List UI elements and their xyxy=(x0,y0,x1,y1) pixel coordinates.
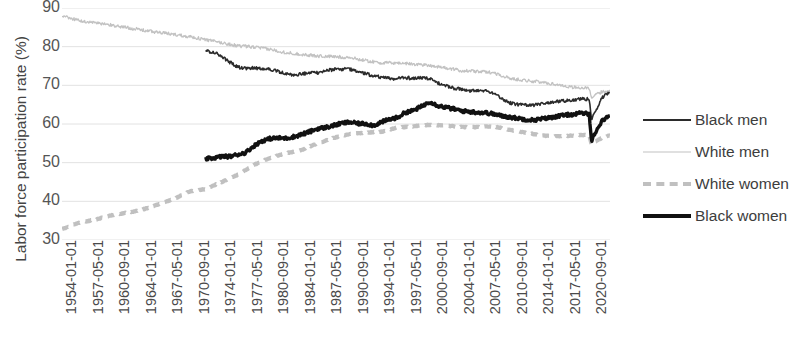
legend-item-label: White women xyxy=(695,175,789,193)
x-axis-tick: 1957-05-01 xyxy=(91,240,105,336)
plot-svg xyxy=(62,8,610,240)
labor-force-participation-chart: Labor force participation rate (%) 90807… xyxy=(0,0,797,339)
x-axis-tick: 1970-09-01 xyxy=(197,240,211,336)
x-axis-tick: 2014-01-01 xyxy=(541,240,555,336)
x-axis-tick: 1977-05-01 xyxy=(250,240,264,336)
x-axis-tick-labels: 1954-01-011957-05-011960-09-011964-01-01… xyxy=(62,240,610,339)
legend-line-icon xyxy=(643,114,691,126)
y-axis-tick: 40 xyxy=(26,192,60,208)
x-axis-tick: 1997-05-01 xyxy=(409,240,423,336)
legend-line-icon xyxy=(643,178,691,190)
x-axis-tick: 1990-09-01 xyxy=(356,240,370,336)
series-line xyxy=(62,16,610,98)
y-axis-tick: 90 xyxy=(26,0,60,15)
series-line xyxy=(62,125,610,229)
legend-item[interactable]: White men xyxy=(643,136,797,168)
y-axis-tick: 60 xyxy=(26,115,60,131)
legend-item[interactable]: White women xyxy=(643,168,797,200)
x-axis-tick: 2017-05-01 xyxy=(568,240,582,336)
x-axis-tick: 1964-01-01 xyxy=(144,240,158,336)
legend-item[interactable]: Black men xyxy=(643,104,797,136)
x-axis-tick: 2000-09-01 xyxy=(435,240,449,336)
y-axis-tick: 70 xyxy=(26,76,60,92)
legend-line-icon xyxy=(643,146,691,158)
x-axis-tick: 1967-05-01 xyxy=(170,240,184,336)
x-axis-tick: 2020-09-01 xyxy=(594,240,608,336)
series-line xyxy=(206,102,610,160)
x-axis-tick: 1980-09-01 xyxy=(276,240,290,336)
x-axis-tick: 2004-01-01 xyxy=(462,240,476,336)
x-axis-tick: 2007-05-01 xyxy=(488,240,502,336)
legend-item[interactable]: Black women xyxy=(643,200,797,232)
chart-legend: Black menWhite menWhite womenBlack women xyxy=(643,104,797,232)
legend-item-label: Black men xyxy=(695,111,767,129)
x-axis-tick: 1954-01-01 xyxy=(64,240,78,336)
y-axis-tick: 50 xyxy=(26,154,60,170)
y-axis-tick: 30 xyxy=(26,231,60,247)
x-axis-tick: 1974-01-01 xyxy=(223,240,237,336)
x-axis-tick: 1994-01-01 xyxy=(382,240,396,336)
legend-item-label: Black women xyxy=(695,207,787,225)
x-axis-tick: 1987-05-01 xyxy=(329,240,343,336)
x-axis-tick: 1984-01-01 xyxy=(303,240,317,336)
legend-item-label: White men xyxy=(695,143,769,161)
y-axis-tick-labels: 90807060504030 xyxy=(20,0,60,245)
legend-line-icon xyxy=(643,210,691,222)
plot-area xyxy=(62,8,610,240)
x-axis-tick: 2010-09-01 xyxy=(515,240,529,336)
x-axis-tick: 1960-09-01 xyxy=(117,240,131,336)
y-axis-tick: 80 xyxy=(26,38,60,54)
